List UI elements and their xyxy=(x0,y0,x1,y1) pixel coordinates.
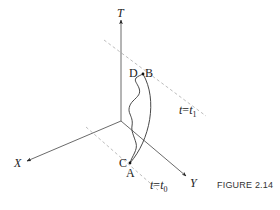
spacetime-diagram xyxy=(0,0,280,210)
point-d-label: D xyxy=(129,67,138,79)
y-axis-label: Y xyxy=(190,177,197,189)
event-point-ac xyxy=(129,162,132,165)
x-axis-label: X xyxy=(14,157,21,169)
time-slice-t1-label: t=t1 xyxy=(179,104,196,119)
point-a-label: A xyxy=(126,167,135,179)
t-axis-label: T xyxy=(117,7,124,19)
event-point-bd xyxy=(142,73,145,76)
worldline-smooth-ab xyxy=(130,74,151,163)
figure-caption: FIGURE 2.14 xyxy=(217,180,273,190)
figure-canvas: T X Y D B C A t=t1 t=t0 FIGURE 2.14 xyxy=(0,0,280,210)
time-slice-t0-label: t=t0 xyxy=(150,179,167,194)
worldline-wiggly-cd xyxy=(129,74,143,163)
x-axis xyxy=(27,121,121,161)
point-b-label: B xyxy=(145,67,153,79)
